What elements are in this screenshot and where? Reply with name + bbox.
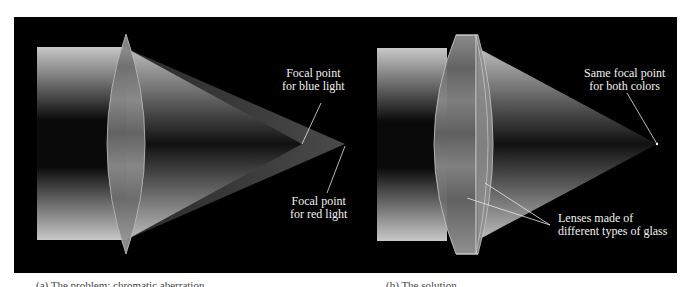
- figure: Focal point for blue light Focal point f…: [0, 0, 691, 287]
- blue-focal-label: Focal point for blue light: [282, 67, 345, 93]
- same-focal-label-line2: for both colors: [584, 80, 665, 93]
- red-focal-label: Focal point for red light: [290, 195, 347, 221]
- same-focal-label: Same focal point for both colors: [584, 67, 665, 93]
- blue-focal-label-line2: for blue light: [282, 80, 345, 93]
- caption-a: (a) The problem: chromatic aberration: [36, 278, 204, 287]
- lenses-label: Lenses made of different types of glass: [558, 212, 667, 238]
- diagram-canvas: [0, 0, 691, 287]
- red-focal-label-line2: for red light: [290, 208, 347, 221]
- lenses-label-line2: different types of glass: [558, 225, 667, 238]
- caption-b: (b) The solution: [386, 278, 457, 287]
- focal-point-dot: [656, 143, 658, 145]
